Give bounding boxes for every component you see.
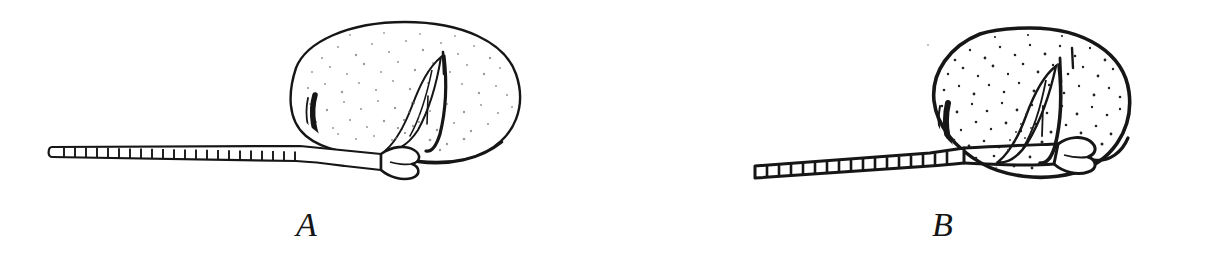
figure-b-scape-joint xyxy=(1054,138,1095,174)
figure-b-ink-fleck xyxy=(927,44,929,46)
figure-b-label: B xyxy=(932,208,953,242)
figure-b-wing-upper-dash xyxy=(1072,48,1073,68)
plate-drawing xyxy=(0,0,1206,277)
figure-a-body-outline xyxy=(291,22,520,162)
illustration-plate: A B xyxy=(0,0,1206,277)
figure-a-wing-mid-mark xyxy=(427,96,428,124)
figure-b-wing-tip-mark xyxy=(1060,58,1061,82)
figure-b-wing-mid-mark xyxy=(1042,106,1043,136)
figure-a-wing-tip-mark xyxy=(443,52,444,74)
figure-a-label: A xyxy=(296,208,317,242)
figure-a-scape-joint xyxy=(381,147,419,179)
